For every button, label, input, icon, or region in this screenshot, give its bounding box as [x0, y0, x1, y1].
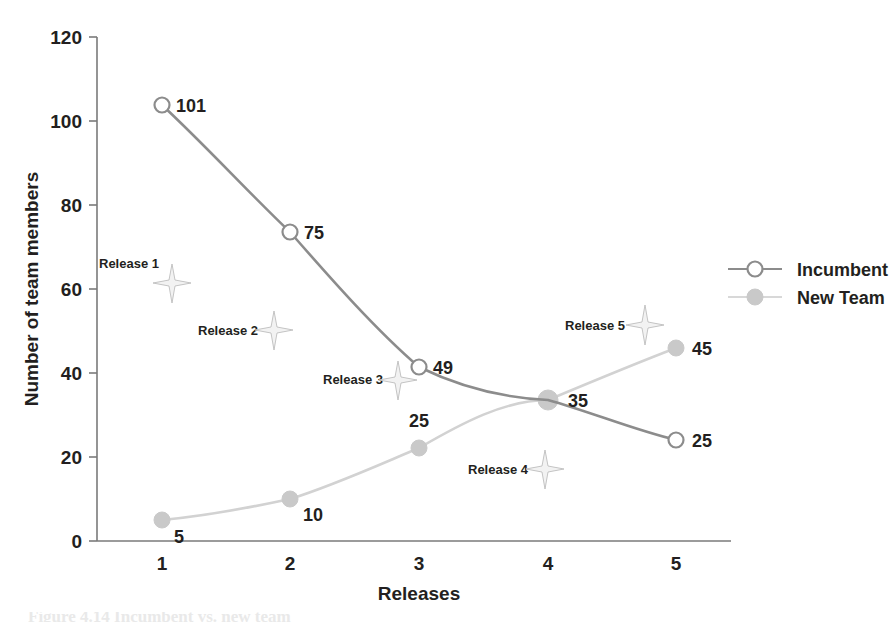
release-annotation-3: Release 3 [323, 361, 417, 400]
legend-label-incumbent: Incumbent [797, 260, 888, 280]
legend-marker-open-circle-icon [748, 262, 763, 277]
value-label-incumbent-3: 49 [433, 358, 453, 378]
y-tick-label-4: 80 [61, 195, 82, 216]
value-label-new-team-5: 45 [692, 339, 712, 359]
release-annotation-2: Release 2 [198, 311, 293, 350]
series-new-team-point-3 [411, 440, 427, 456]
x-tick-label-2: 3 [414, 553, 425, 574]
release-3-label: Release 3 [323, 372, 383, 387]
release-4-label: Release 4 [468, 462, 529, 477]
x-tick-label-4: 5 [671, 553, 682, 574]
four-point-star-icon [255, 311, 293, 350]
four-point-star-icon [626, 305, 664, 345]
y-tick-label-2: 40 [61, 363, 82, 384]
series-new-team-point-2 [282, 491, 298, 507]
y-tick-label-6: 120 [50, 27, 82, 48]
value-label-incumbent-1: 101 [176, 96, 206, 116]
release-annotation-1: Release 1 [99, 256, 191, 303]
y-tick-label-5: 100 [50, 111, 82, 132]
release-annotation-5: Release 5 [565, 305, 664, 345]
chart-figure: 120 100 80 60 40 20 0 1 2 3 4 5 Releases… [0, 0, 890, 622]
four-point-star-icon [526, 450, 564, 489]
legend-entry-new-team[interactable]: New Team [728, 288, 885, 308]
value-label-new-team-1: 5 [174, 527, 184, 547]
series-new-team-point-5 [668, 340, 684, 356]
x-tick-label-0: 1 [157, 553, 168, 574]
series-incumbent-point-3 [412, 360, 427, 375]
x-tick-label-3: 4 [543, 553, 554, 574]
line-chart-canvas: 120 100 80 60 40 20 0 1 2 3 4 5 Releases… [0, 0, 890, 622]
chart-legend: Incumbent New Team [728, 260, 888, 308]
series-incumbent-line [162, 105, 676, 440]
y-tick-label-1: 20 [61, 447, 82, 468]
legend-label-new-team: New Team [797, 288, 885, 308]
x-tick-label-1: 2 [285, 553, 296, 574]
release-2-label: Release 2 [198, 323, 258, 338]
y-tick-labels: 120 100 80 60 40 20 0 [50, 27, 82, 552]
release-5-label: Release 5 [565, 318, 625, 333]
release-annotation-4: Release 4 [468, 450, 564, 489]
x-tick-labels: 1 2 3 4 5 [157, 553, 682, 574]
release-1-label: Release 1 [99, 256, 159, 271]
y-axis-title: Number of team members [21, 172, 42, 406]
series-incumbent-point-1 [155, 98, 170, 113]
series-incumbent-point-5 [669, 433, 684, 448]
series-incumbent-point-2 [283, 225, 298, 240]
series-new-team-point-1 [154, 512, 170, 528]
legend-entry-incumbent[interactable]: Incumbent [728, 260, 888, 280]
value-label-new-team-2: 10 [303, 505, 323, 525]
value-label-incumbent-2: 75 [304, 223, 324, 243]
legend-marker-filled-circle-icon [747, 289, 763, 305]
y-tick-label-0: 0 [71, 531, 82, 552]
x-axis-title: Releases [378, 583, 460, 604]
data-point-labels: 101 75 49 35 25 5 10 25 45 [174, 96, 712, 547]
release-annotations: Release 1 Release 2 Release 3 Release 4 … [99, 256, 664, 489]
y-tick-label-3: 60 [61, 279, 82, 300]
series-incumbent [155, 98, 684, 448]
value-label-new-team-3: 25 [409, 411, 429, 431]
value-label-incumbent-4: 35 [568, 391, 588, 411]
value-label-incumbent-5: 25 [692, 431, 712, 451]
figure-caption: Figure 4.14 Incumbent vs. new team [28, 612, 448, 622]
